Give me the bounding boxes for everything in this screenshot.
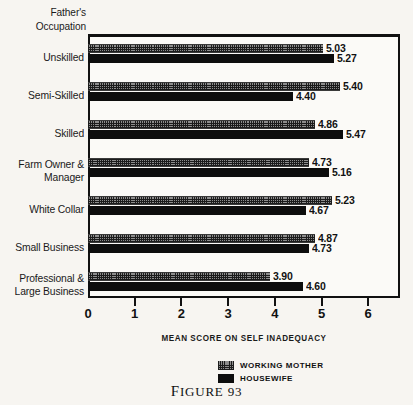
bar-value-label: 4.73 xyxy=(312,156,332,168)
y-axis-title: Father's Occupation xyxy=(17,6,86,33)
bar-working-mother xyxy=(88,234,315,243)
legend-item-working-mother: WORKING MOTHER xyxy=(218,360,323,370)
bar-value-label: 5.47 xyxy=(346,128,366,140)
bar-value-label: 4.86 xyxy=(318,118,338,130)
x-axis-tick xyxy=(180,298,182,306)
x-axis-tick-label: 3 xyxy=(218,306,238,321)
bar-housewife xyxy=(88,206,306,215)
bar-housewife xyxy=(88,168,329,177)
category-label: Skilled xyxy=(8,127,84,140)
x-axis-tick xyxy=(321,298,323,306)
x-axis-tick xyxy=(367,298,369,306)
x-axis-tick xyxy=(227,298,229,306)
figure-93-chart: Father's Occupation UnskilledSemi-Skille… xyxy=(0,0,413,405)
legend-item-housewife: HOUSEWIFE xyxy=(218,373,323,383)
category-label: Professional & Large Business xyxy=(8,272,84,298)
category-label: Farm Owner & Manager xyxy=(8,158,84,184)
x-axis-tick xyxy=(274,298,276,306)
bar-value-label: 4.60 xyxy=(306,280,326,292)
legend-label-housewife: HOUSEWIFE xyxy=(240,374,293,383)
bar-working-mother xyxy=(88,120,315,129)
bar-housewife xyxy=(88,244,309,253)
legend-swatch-housewife-icon xyxy=(218,374,234,383)
x-axis-tick-label: 5 xyxy=(312,306,332,321)
x-axis-tick xyxy=(134,298,136,306)
bar-working-mother xyxy=(88,158,309,167)
bar-value-label: 4.40 xyxy=(296,90,316,102)
bar-housewife xyxy=(88,282,303,291)
figure-caption: FIGURE 93 xyxy=(0,383,413,400)
legend-label-working-mother: WORKING MOTHER xyxy=(240,361,323,370)
bar-housewife xyxy=(88,130,343,139)
bar-value-label: 4.73 xyxy=(312,242,332,254)
bar-housewife xyxy=(88,92,293,101)
bar-value-label: 5.40 xyxy=(343,80,363,92)
category-label: Unskilled xyxy=(8,51,84,64)
x-axis-tick-label: 6 xyxy=(358,306,378,321)
bar-working-mother xyxy=(88,196,332,205)
x-axis-label: MEAN SCORE ON SELF INADEQUACY xyxy=(96,333,392,343)
bar-value-label: 5.23 xyxy=(335,194,355,206)
bar-value-label: 5.27 xyxy=(337,52,357,64)
category-label: White Collar xyxy=(8,203,84,216)
bar-value-label: 4.67 xyxy=(309,204,329,216)
bar-housewife xyxy=(88,54,334,63)
legend-swatch-working-mother-icon xyxy=(218,361,234,370)
x-axis-tick-label: 0 xyxy=(78,306,98,321)
x-axis-tick-label: 4 xyxy=(265,306,285,321)
bar-working-mother xyxy=(88,44,323,53)
category-label: Small Business xyxy=(8,241,84,254)
bar-value-label: 5.16 xyxy=(332,166,352,178)
x-axis-tick-label: 1 xyxy=(125,306,145,321)
category-label: Semi-Skilled xyxy=(8,89,84,102)
x-axis-tick-label: 2 xyxy=(171,306,191,321)
bar-value-label: 3.90 xyxy=(273,270,293,282)
bar-working-mother xyxy=(88,272,270,281)
